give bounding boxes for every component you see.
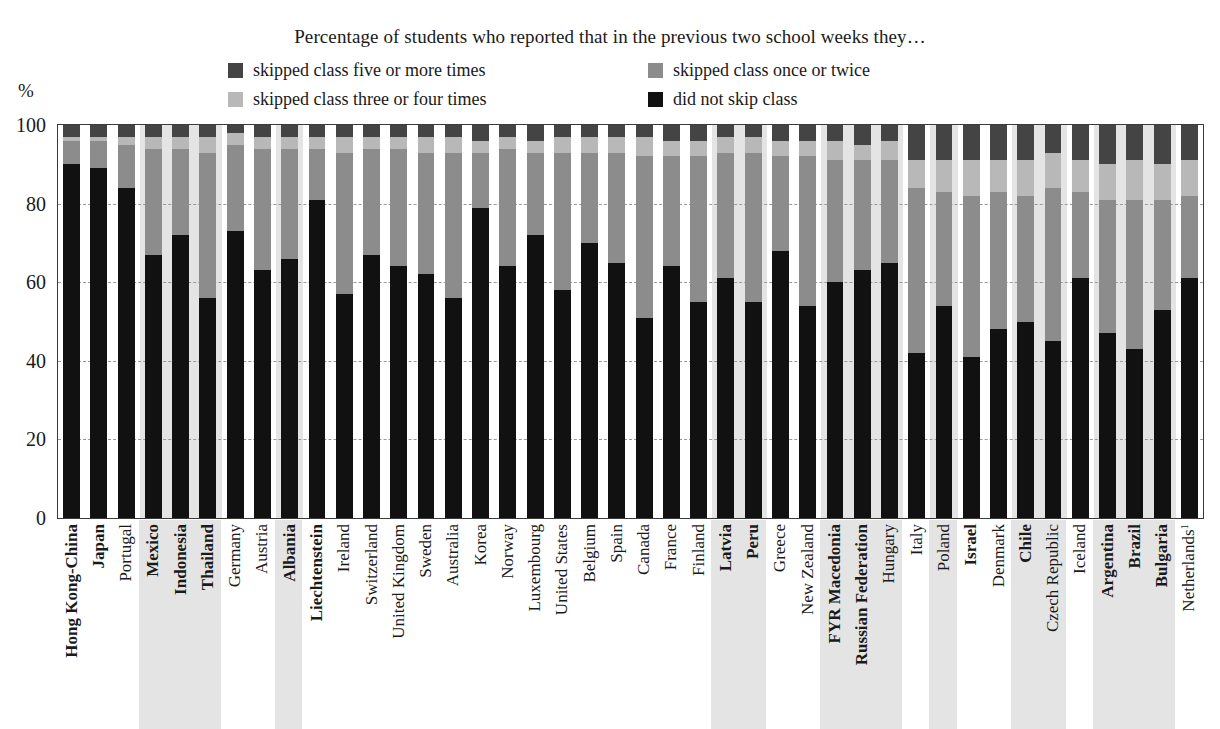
bar-stack[interactable] <box>1017 125 1034 518</box>
x-axis-label-cell[interactable]: Japan <box>84 520 111 729</box>
bar-stack[interactable] <box>172 125 189 518</box>
bar-stack[interactable] <box>636 125 653 518</box>
x-axis-label-cell[interactable]: Chile <box>1011 520 1038 729</box>
bar-stack[interactable] <box>472 125 489 518</box>
x-axis-label-cell[interactable]: Albania <box>275 520 302 729</box>
bar-stack[interactable] <box>963 125 980 518</box>
bar-stack[interactable] <box>745 125 762 518</box>
bar-stack[interactable] <box>717 125 734 518</box>
x-axis-label-cell[interactable]: Russian Federation <box>848 520 875 729</box>
bar-stack[interactable] <box>908 125 925 518</box>
bar-stack[interactable] <box>445 125 462 518</box>
x-axis-label-cell[interactable]: Indonesia <box>166 520 193 729</box>
x-axis-label-cell[interactable]: Liechtenstein <box>302 520 329 729</box>
bar-segment-five_or_more <box>118 125 135 137</box>
bar-stack[interactable] <box>690 125 707 518</box>
bar-stack[interactable] <box>581 125 598 518</box>
bar-segment-three_or_four <box>1154 164 1171 199</box>
x-axis-label-cell[interactable]: New Zealand <box>793 520 820 729</box>
bar-stack[interactable] <box>390 125 407 518</box>
bar-stack[interactable] <box>554 125 571 518</box>
bar-stack[interactable] <box>827 125 844 518</box>
x-axis-label-cell[interactable]: FYR Macedonia <box>820 520 847 729</box>
bar-stack[interactable] <box>281 125 298 518</box>
bar-stack[interactable] <box>1126 125 1143 518</box>
x-axis-label-cell[interactable]: Ireland <box>330 520 357 729</box>
x-axis-label-cell[interactable]: Germany <box>221 520 248 729</box>
bar-stack[interactable] <box>227 125 244 518</box>
x-axis-label-cell[interactable]: United States <box>548 520 575 729</box>
bar-stack[interactable] <box>854 125 871 518</box>
x-axis-label-cell[interactable]: Portugal <box>112 520 139 729</box>
bar-stack[interactable] <box>199 125 216 518</box>
bar-stack[interactable] <box>63 125 80 518</box>
x-axis-label-cell[interactable]: Poland <box>929 520 956 729</box>
stacked-bar-chart: Percentage of students who reported that… <box>0 0 1220 729</box>
x-axis-label: Luxembourg <box>526 524 543 612</box>
bar-stack[interactable] <box>363 125 380 518</box>
legend-label: skipped class three or four times <box>253 89 486 110</box>
bar-segment-did_not_skip <box>1181 278 1198 518</box>
bar-segment-once_or_twice <box>172 149 189 235</box>
x-axis-label-cell[interactable]: Hong Kong-China <box>57 520 84 729</box>
bar-stack[interactable] <box>663 125 680 518</box>
bar-stack[interactable] <box>90 125 107 518</box>
x-axis-label-cell[interactable]: Switzerland <box>357 520 384 729</box>
bar-segment-three_or_four <box>581 137 598 153</box>
bar-stack[interactable] <box>990 125 1007 518</box>
x-axis-label-cell[interactable]: Australia <box>439 520 466 729</box>
bar-stack[interactable] <box>936 125 953 518</box>
bar-stack[interactable] <box>309 125 326 518</box>
bar-stack[interactable] <box>608 125 625 518</box>
x-axis-label-cell[interactable]: Iceland <box>1066 520 1093 729</box>
bar-stack[interactable] <box>118 125 135 518</box>
bar-stack[interactable] <box>1099 125 1116 518</box>
x-axis-label-cell[interactable]: Belgium <box>575 520 602 729</box>
x-axis-label-cell[interactable]: Netherlands1 <box>1175 520 1202 729</box>
bar-stack[interactable] <box>772 125 789 518</box>
bar-segment-five_or_more <box>854 125 871 145</box>
x-axis-label-cell[interactable]: Korea <box>466 520 493 729</box>
x-axis-label-cell[interactable]: France <box>657 520 684 729</box>
x-axis-label: Switzerland <box>362 524 379 605</box>
bar-stack[interactable] <box>527 125 544 518</box>
x-axis-label-cell[interactable]: Israel <box>957 520 984 729</box>
x-axis-label-cell[interactable]: Sweden <box>411 520 438 729</box>
x-axis-label-cell[interactable]: Luxembourg <box>520 520 547 729</box>
x-axis-label-cell[interactable]: Czech Republic <box>1038 520 1065 729</box>
x-axis-label-cell[interactable]: Hungary <box>875 520 902 729</box>
bar-stack[interactable] <box>254 125 271 518</box>
x-axis-label-cell[interactable]: Bulgaria <box>1147 520 1174 729</box>
bar-stack[interactable] <box>1045 125 1062 518</box>
bar-stack[interactable] <box>1181 125 1198 518</box>
x-axis-label-cell[interactable]: Peru <box>739 520 766 729</box>
x-axis-label: Argentina <box>1098 524 1115 598</box>
bar-stack[interactable] <box>418 125 435 518</box>
x-axis-label-cell[interactable]: United Kingdom <box>384 520 411 729</box>
x-axis-label-cell[interactable]: Mexico <box>139 520 166 729</box>
x-axis-label-cell[interactable]: Thailand <box>193 520 220 729</box>
bar-segment-once_or_twice <box>554 153 571 291</box>
x-axis-label-cell[interactable]: Latvia <box>711 520 738 729</box>
x-axis-label-cell[interactable]: Brazil <box>1120 520 1147 729</box>
x-axis-label-cell[interactable]: Austria <box>248 520 275 729</box>
bar-stack[interactable] <box>881 125 898 518</box>
bar-segment-five_or_more <box>936 125 953 160</box>
x-axis-label-cell[interactable]: Italy <box>902 520 929 729</box>
bar-stack[interactable] <box>1072 125 1089 518</box>
bar-stack[interactable] <box>499 125 516 518</box>
x-axis-label-cell[interactable]: Spain <box>602 520 629 729</box>
bar-stack[interactable] <box>1154 125 1171 518</box>
x-axis-label-cell[interactable]: Canada <box>630 520 657 729</box>
x-axis-label-cell[interactable]: Norway <box>493 520 520 729</box>
bar-segment-three_or_four <box>717 137 734 153</box>
bar-stack[interactable] <box>799 125 816 518</box>
x-axis-label-cell[interactable]: Finland <box>684 520 711 729</box>
bar-stack[interactable] <box>145 125 162 518</box>
bar-stack[interactable] <box>336 125 353 518</box>
x-axis-label-cell[interactable]: Greece <box>766 520 793 729</box>
x-axis-label-cell[interactable]: Argentina <box>1093 520 1120 729</box>
bar-segment-once_or_twice <box>663 156 680 266</box>
bar-segment-did_not_skip <box>636 318 653 518</box>
x-axis-label-cell[interactable]: Denmark <box>984 520 1011 729</box>
